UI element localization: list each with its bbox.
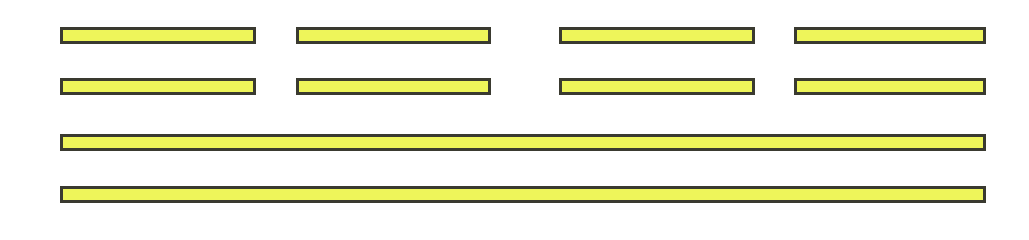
bar-r2-3	[559, 78, 755, 95]
bar-r1-2	[296, 27, 491, 44]
bar-r2-1	[60, 78, 256, 95]
bar-r1-4	[794, 27, 986, 44]
bar-r4-1	[60, 186, 986, 203]
bar-r3-1	[60, 134, 986, 151]
bar-r1-3	[559, 27, 755, 44]
bar-r2-4	[794, 78, 986, 95]
bar-r2-2	[296, 78, 491, 95]
bar-r1-1	[60, 27, 256, 44]
